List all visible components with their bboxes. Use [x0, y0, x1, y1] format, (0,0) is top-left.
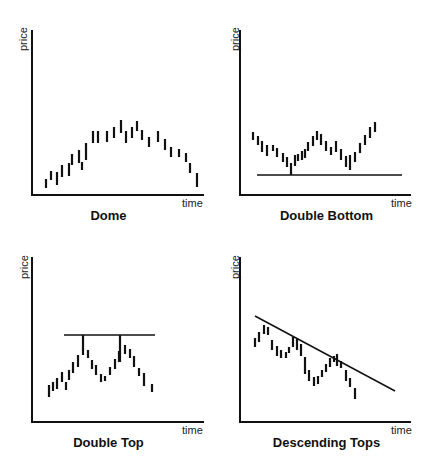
price-bars: [46, 120, 197, 188]
y-axis-label: price: [229, 27, 241, 51]
chart-double-top: price time Double Top: [0, 236, 217, 472]
y-axis-label: price: [17, 27, 29, 51]
axes: [239, 257, 411, 422]
chart-title: Double Top: [0, 435, 217, 450]
axes: [31, 257, 204, 422]
price-bars: [255, 325, 355, 399]
y-axis-label: price: [18, 255, 30, 279]
axes: [239, 30, 411, 195]
chart-double-bottom: price time Double Bottom: [218, 0, 435, 236]
chart-title: Dome: [0, 208, 217, 223]
y-axis-label: price: [229, 255, 241, 279]
axes: [31, 30, 204, 195]
price-bars: [253, 122, 375, 175]
chart-descending-tops: price time Descending Tops: [218, 236, 435, 472]
price-bars: [49, 335, 152, 397]
chart-title: Double Bottom: [218, 208, 435, 223]
chart-dome: price time Dome: [0, 0, 217, 236]
chart-title: Descending Tops: [218, 435, 435, 450]
